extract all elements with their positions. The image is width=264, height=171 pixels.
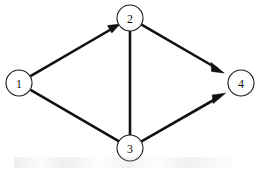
- graph-canvas: 1 2 3 4: [0, 0, 264, 171]
- edge-1-to-2-line: [31, 27, 116, 76]
- edge-1-to-3-line: [31, 90, 119, 141]
- node-2-label: 2: [127, 12, 133, 26]
- node-1[interactable]: 1: [6, 70, 32, 96]
- node-1-label: 1: [16, 77, 22, 91]
- node-4[interactable]: 4: [228, 70, 254, 96]
- edge-2-to-4-line: [142, 25, 219, 69]
- edge-3-to-4[interactable]: [142, 93, 226, 141]
- edge-2-to-4-arrowhead: [211, 62, 224, 73]
- edge-1-to-3[interactable]: [31, 90, 119, 141]
- node-4-label: 4: [238, 77, 244, 91]
- node-3-label: 3: [127, 142, 133, 156]
- edge-3-to-4-line: [142, 97, 220, 141]
- edge-1-to-2[interactable]: [31, 24, 121, 76]
- node-2[interactable]: 2: [117, 5, 143, 31]
- edge-2-to-4[interactable]: [142, 25, 225, 73]
- edge-3-to-4-arrowhead: [212, 93, 225, 103]
- graph-diagram: 1 2 3 4: [0, 0, 264, 171]
- node-3[interactable]: 3: [117, 135, 143, 161]
- edge-group: [31, 24, 226, 141]
